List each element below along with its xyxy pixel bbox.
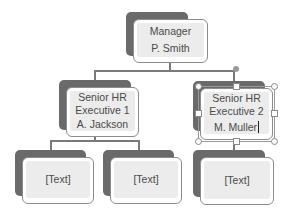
resize-handle-middle-right[interactable] bbox=[271, 110, 278, 117]
report2-label: [Text] bbox=[133, 173, 158, 186]
manager-name: P. Smith bbox=[151, 42, 189, 55]
report1-box-fill: [Text] bbox=[26, 161, 90, 198]
report3-box[interactable]: [Text] bbox=[200, 157, 274, 205]
exec1-title-line1: Senior HR bbox=[78, 91, 126, 104]
report1-label: [Text] bbox=[45, 173, 70, 186]
rotation-handle-icon[interactable] bbox=[233, 66, 239, 72]
resize-handle-top-center[interactable] bbox=[233, 83, 240, 90]
org-chart-canvas: Manager P. Smith Senior HR Executive 1 A… bbox=[0, 0, 290, 218]
connector-level1-horizontal bbox=[94, 70, 234, 72]
resize-handle-bottom-center[interactable] bbox=[233, 138, 240, 145]
exec2-title-line1: Senior HR bbox=[212, 92, 260, 105]
exec2-name[interactable]: M. Muller bbox=[214, 121, 257, 133]
exec2-box[interactable]: Senior HR Executive 2 M. Muller bbox=[200, 88, 273, 140]
exec1-name: A. Jackson bbox=[77, 118, 128, 131]
exec1-title-line2: Executive 1 bbox=[75, 104, 129, 117]
exec2-title-line2: Executive 2 bbox=[209, 105, 263, 118]
text-caret bbox=[258, 121, 259, 133]
exec1-box[interactable]: Senior HR Executive 1 A. Jackson bbox=[66, 87, 139, 137]
report2-box-fill: [Text] bbox=[114, 161, 178, 198]
report1-box[interactable]: [Text] bbox=[22, 157, 94, 204]
resize-handle-bottom-left[interactable] bbox=[195, 138, 202, 145]
exec2-box-fill: Senior HR Executive 2 M. Muller bbox=[204, 92, 269, 134]
report2-box[interactable]: [Text] bbox=[110, 157, 182, 204]
connector-level2-horizontal bbox=[50, 140, 139, 142]
resize-handle-bottom-right[interactable] bbox=[271, 138, 278, 145]
manager-box[interactable]: Manager P. Smith bbox=[133, 19, 208, 63]
exec2-name-row[interactable]: M. Muller bbox=[214, 121, 259, 134]
resize-handle-middle-left[interactable] bbox=[195, 110, 202, 117]
manager-box-fill: Manager P. Smith bbox=[137, 23, 204, 57]
resize-handle-top-right[interactable] bbox=[271, 83, 278, 90]
report3-box-fill: [Text] bbox=[204, 161, 270, 199]
exec1-box-fill: Senior HR Executive 1 A. Jackson bbox=[70, 91, 135, 131]
report3-label: [Text] bbox=[224, 174, 249, 187]
resize-handle-top-left[interactable] bbox=[195, 83, 202, 90]
manager-title: Manager bbox=[150, 25, 191, 38]
